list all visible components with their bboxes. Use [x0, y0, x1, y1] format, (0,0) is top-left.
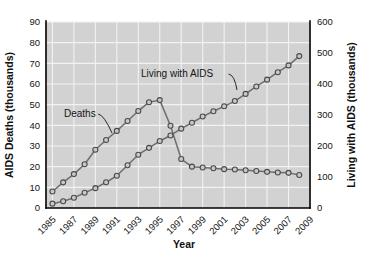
data-point-marker: [104, 138, 109, 143]
data-point-marker: [114, 173, 119, 178]
data-point-marker: [243, 168, 248, 173]
y-axis-right-tick-label: 600: [317, 16, 333, 27]
series-annotation-label: Deaths: [64, 108, 96, 119]
data-point-marker: [136, 152, 141, 157]
data-point-marker: [61, 180, 66, 185]
data-point-marker: [179, 126, 184, 131]
data-point-marker: [275, 70, 280, 75]
data-point-marker: [93, 186, 98, 191]
chart-container: 0102030405060708090 0100200300400500600 …: [0, 0, 365, 261]
data-point-marker: [125, 118, 130, 123]
series-annotation-label: Living with AIDS: [141, 68, 214, 79]
data-point-marker: [254, 169, 259, 174]
data-point-marker: [136, 109, 141, 114]
data-point-marker: [297, 172, 302, 177]
data-point-marker: [157, 98, 162, 103]
data-point-marker: [211, 166, 216, 171]
data-point-marker: [61, 199, 66, 204]
y-axis-left-tick-label: 20: [29, 161, 40, 172]
y-axis-left-tick-label: 80: [29, 37, 40, 48]
data-point-marker: [222, 167, 227, 172]
y-axis-right-tick-label: 0: [317, 202, 322, 213]
data-point-marker: [254, 84, 259, 89]
data-point-marker: [50, 201, 55, 206]
data-point-marker: [232, 99, 237, 104]
data-point-marker: [147, 145, 152, 150]
data-point-marker: [125, 163, 130, 168]
data-point-marker: [243, 91, 248, 96]
data-point-marker: [211, 109, 216, 114]
y-axis-left-tick-label: 50: [29, 99, 40, 110]
data-point-marker: [189, 120, 194, 125]
y-axis-right-title: Living with AIDS (thousands): [345, 42, 357, 187]
y-axis-right-tick-label: 300: [317, 109, 333, 120]
data-point-marker: [265, 169, 270, 174]
data-point-marker: [71, 195, 76, 200]
data-point-marker: [114, 128, 119, 133]
data-point-marker: [147, 100, 152, 105]
data-point-marker: [200, 114, 205, 119]
data-point-marker: [232, 167, 237, 172]
data-point-marker: [265, 77, 270, 82]
data-point-marker: [222, 104, 227, 109]
y-axis-left-tick-label: 30: [29, 140, 40, 151]
data-point-marker: [71, 172, 76, 177]
y-axis-left-tick-label: 0: [35, 202, 40, 213]
x-axis-title: Year: [173, 238, 195, 250]
data-point-marker: [50, 189, 55, 194]
data-point-marker: [286, 170, 291, 175]
data-point-marker: [82, 162, 87, 167]
data-point-marker: [82, 190, 87, 195]
y-axis-right-tick-label: 400: [317, 78, 333, 89]
data-point-marker: [200, 165, 205, 170]
data-point-marker: [286, 63, 291, 68]
data-point-marker: [93, 147, 98, 152]
data-point-marker: [179, 157, 184, 162]
data-point-marker: [168, 133, 173, 138]
y-axis-left-tick-label: 10: [29, 182, 40, 193]
data-point-marker: [297, 54, 302, 59]
y-axis-left-tick-label: 40: [29, 120, 40, 131]
data-point-marker: [157, 139, 162, 144]
data-point-marker: [275, 170, 280, 175]
data-point-marker: [189, 164, 194, 169]
y-axis-left-tick-label: 90: [29, 16, 40, 27]
y-axis-right-tick-label: 100: [317, 171, 333, 182]
y-axis-right-tick-label: 200: [317, 140, 333, 151]
y-axis-right-tick-label: 500: [317, 47, 333, 58]
aids-dual-axis-line-chart: 0102030405060708090 0100200300400500600 …: [0, 0, 365, 261]
y-axis-left-tick-label: 60: [29, 78, 40, 89]
data-point-marker: [168, 123, 173, 128]
y-axis-left-tick-label: 70: [29, 58, 40, 69]
y-axis-left-title: AIDS Deaths (thousands): [3, 52, 15, 178]
data-point-marker: [104, 180, 109, 185]
